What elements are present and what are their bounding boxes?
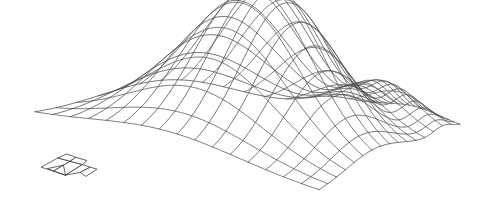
mesh-line-column [307,84,433,132]
mesh-grid [35,0,460,190]
orientation-glyph-icon [41,154,97,176]
mesh-line-row [53,68,376,115]
mesh-line-column [161,0,372,150]
mesh-line-row [230,46,432,155]
surface-plot-figure: 3D wireframe mesh of a single smooth uni… [0,0,489,215]
mesh-line-row [142,0,404,125]
mesh-line-column [56,107,328,184]
mesh-line-row [159,0,409,129]
mesh-line-row [284,114,449,177]
mesh-line-row [71,53,382,117]
mesh-line-column [35,112,319,190]
mesh-line-row [301,120,454,184]
mesh-line-row [88,35,387,119]
wireframe-surface-canvas [0,0,489,215]
